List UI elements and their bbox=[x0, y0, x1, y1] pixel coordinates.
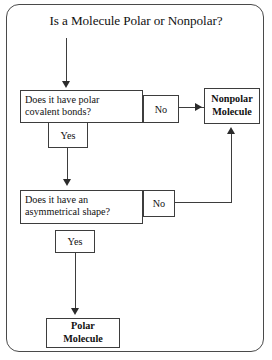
flowchart-canvas: Is a Molecule Polar or Nonpolar? Does it… bbox=[0, 0, 272, 360]
terminal-box-polar-molecule: Polar Molecule bbox=[46, 318, 120, 348]
decision-1-line-1: Does it have polar bbox=[25, 94, 142, 106]
branch-label-no-decision-2: No bbox=[143, 190, 175, 217]
arrow-right-icon bbox=[195, 103, 202, 111]
connector-yes-1-to-decision-2 bbox=[67, 148, 68, 180]
decision-2-line-2: asymmetrical shape? bbox=[25, 206, 142, 218]
page-title: Is a Molecule Polar or Nonpolar? bbox=[0, 13, 272, 29]
polar-line-2: Molecule bbox=[63, 333, 103, 346]
decision-box-asymmetrical-shape: Does it have an asymmetrical shape? bbox=[20, 190, 143, 224]
connector-no-2-vertical bbox=[231, 134, 232, 203]
connector-no-1-to-nonpolar bbox=[179, 107, 207, 108]
branch-label-yes-decision-2: Yes bbox=[55, 230, 95, 253]
arrow-down-icon bbox=[63, 179, 71, 186]
terminal-box-nonpolar-molecule: Nonpolar Molecule bbox=[204, 88, 260, 124]
arrow-down-icon bbox=[71, 308, 79, 315]
arrow-up-icon bbox=[227, 127, 235, 134]
connector-title-to-decision-1 bbox=[66, 38, 67, 82]
polar-line-1: Polar bbox=[71, 320, 95, 333]
diagram-frame bbox=[6, 4, 264, 352]
connector-no-2-horizontal bbox=[175, 202, 232, 203]
branch-label-no-decision-1: No bbox=[143, 95, 179, 123]
branch-label-yes-decision-1: Yes bbox=[48, 122, 88, 148]
connector-yes-2-to-polar bbox=[75, 253, 76, 310]
nonpolar-line-1: Nonpolar bbox=[211, 93, 252, 106]
arrow-down-icon bbox=[62, 81, 70, 88]
decision-box-polar-covalent-bonds: Does it have polar covalent bonds? bbox=[20, 90, 143, 123]
nonpolar-line-2: Molecule bbox=[212, 106, 252, 119]
decision-1-line-2: covalent bonds? bbox=[25, 106, 142, 118]
decision-2-line-1: Does it have an bbox=[25, 194, 142, 206]
